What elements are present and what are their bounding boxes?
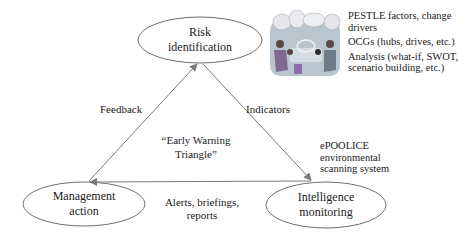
edge-label-alerts-line1: Alerts, briefings, — [160, 196, 244, 209]
node-risk-line1: Risk — [150, 25, 250, 40]
team-meeting-illustration — [268, 10, 342, 78]
node-intelligence-line1: Intelligence — [276, 190, 376, 205]
system-label-line2: environmental — [320, 152, 389, 164]
center-label-early-warning-triangle: “Early Warning Triangle” — [160, 133, 232, 161]
note-ocgs: OCGs (hubs, drives, etc.) — [348, 36, 470, 48]
edge-label-alerts: Alerts, briefings, reports — [160, 196, 244, 222]
edge-feedback-arrow — [89, 64, 197, 181]
node-intelligence-line2: monitoring — [276, 205, 376, 220]
node-risk-line2: identification — [150, 40, 250, 55]
center-label-line2: Triangle” — [160, 147, 232, 161]
note-pestle: PESTLE factors, change drivers — [348, 10, 470, 33]
edge-indicators-arrow — [203, 64, 311, 180]
system-label-line1: ePOOLICE — [320, 140, 389, 152]
edge-label-feedback: Feedback — [100, 103, 142, 116]
node-risk-identification: Risk identification — [150, 25, 250, 55]
edge-label-indicators: Indicators — [246, 103, 290, 116]
node-management-line1: Management — [34, 189, 134, 204]
node-management-action: Management action — [34, 189, 134, 219]
node-intelligence-monitoring: Intelligence monitoring — [276, 190, 376, 220]
center-label-line1: “Early Warning — [160, 133, 232, 147]
risk-identification-notes: PESTLE factors, change drivers OCGs (hub… — [348, 10, 470, 77]
node-management-line2: action — [34, 204, 134, 219]
system-label-epoolice: ePOOLICE environmental scanning system — [320, 140, 389, 175]
edge-alerts-arrow — [90, 181, 311, 182]
edge-label-alerts-line2: reports — [160, 209, 244, 222]
system-label-line3: scanning system — [320, 163, 389, 175]
note-analysis: Analysis (what-if, SWOT, scenario buildi… — [348, 51, 470, 74]
